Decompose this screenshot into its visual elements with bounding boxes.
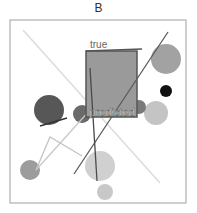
circle-2 bbox=[144, 101, 168, 125]
predicted-label: predicted bbox=[89, 106, 134, 118]
circle-1 bbox=[160, 85, 172, 97]
circle-8 bbox=[20, 160, 40, 180]
true-label: true bbox=[90, 39, 108, 50]
circle-0 bbox=[151, 44, 181, 74]
circle-6 bbox=[85, 151, 115, 181]
diagram-canvas: true predicted bbox=[0, 0, 197, 213]
circle-7 bbox=[97, 184, 113, 200]
